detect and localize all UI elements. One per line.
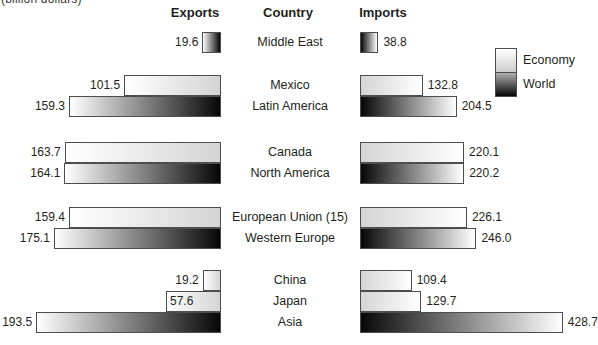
exports-bar	[36, 312, 221, 333]
country-label: Japan	[220, 291, 360, 312]
exports-bar	[64, 163, 221, 184]
country-label: Asia	[220, 312, 360, 333]
imports-bar	[360, 32, 378, 53]
exports-value: 19.2	[175, 270, 198, 291]
imports-bar	[360, 75, 423, 96]
imports-value: 220.2	[469, 163, 499, 184]
imports-value: 220.1	[469, 142, 499, 163]
country-label: Canada	[220, 142, 360, 163]
imports-value: 38.8	[383, 32, 406, 53]
trade-bar-chart: (billion dollars) Exports Country Import…	[0, 0, 598, 345]
imports-value: 204.5	[462, 96, 492, 117]
country-label: Middle East	[220, 32, 360, 53]
exports-bar	[54, 228, 221, 249]
imports-value: 132.8	[428, 75, 458, 96]
exports-value: 193.5	[2, 312, 32, 333]
exports-value: 159.4	[35, 207, 65, 228]
legend: Economy World	[495, 48, 517, 97]
imports-bar	[360, 163, 464, 184]
unit-label: (billion dollars)	[1, 0, 82, 6]
exports-value: 159.3	[35, 96, 65, 117]
imports-value: 246.0	[481, 228, 511, 249]
imports-value: 428.7	[568, 312, 598, 333]
imports-value: 226.1	[472, 207, 502, 228]
country-label: China	[220, 270, 360, 291]
imports-bar	[360, 207, 467, 228]
country-label: Western Europe	[220, 228, 360, 249]
imports-bar	[360, 312, 563, 333]
exports-bar	[202, 32, 221, 53]
country-label: Mexico	[220, 75, 360, 96]
country-label: Latin America	[220, 96, 360, 117]
legend-economy-swatch	[495, 48, 517, 73]
exports-value: 57.6	[170, 291, 193, 312]
imports-bar	[360, 142, 464, 163]
imports-column-header: Imports	[328, 5, 438, 20]
exports-value: 175.1	[20, 228, 50, 249]
imports-value: 109.4	[417, 270, 447, 291]
exports-value: 19.6	[175, 32, 198, 53]
exports-bar	[69, 96, 221, 117]
imports-bar	[360, 228, 476, 249]
country-column-header: Country	[233, 5, 343, 20]
exports-value: 163.7	[31, 142, 61, 163]
imports-bar	[360, 270, 412, 291]
country-label: European Union (15)	[220, 207, 360, 228]
imports-bar	[360, 96, 457, 117]
legend-world-label: World	[523, 72, 555, 97]
imports-value: 129.7	[426, 291, 456, 312]
exports-bar	[69, 207, 221, 228]
exports-bar	[124, 75, 221, 96]
country-label: North America	[220, 163, 360, 184]
exports-bar	[203, 270, 221, 291]
exports-value: 101.5	[90, 75, 120, 96]
exports-value: 164.1	[30, 163, 60, 184]
legend-economy-label: Economy	[523, 48, 575, 73]
legend-world-swatch	[495, 72, 517, 97]
exports-bar	[65, 142, 221, 163]
imports-bar	[360, 291, 421, 312]
